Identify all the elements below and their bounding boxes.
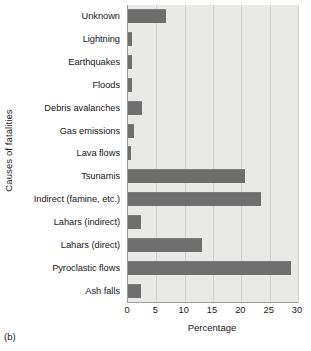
bar xyxy=(128,124,134,138)
category-label: Tsunamis xyxy=(16,165,124,188)
bar xyxy=(128,146,131,160)
bar xyxy=(128,169,245,183)
bar-row xyxy=(128,256,298,279)
category-label: Unknown xyxy=(16,5,124,28)
x-tick-label: 15 xyxy=(207,305,217,315)
category-label: Ash falls xyxy=(16,279,124,302)
bar-row xyxy=(128,96,298,119)
y-axis-title: Causes of fatalities xyxy=(0,0,16,300)
bar-row xyxy=(128,119,298,142)
bar-row xyxy=(128,5,298,28)
bar xyxy=(128,215,141,229)
bar-row xyxy=(128,51,298,74)
bar xyxy=(128,238,202,252)
bar xyxy=(128,32,132,46)
plot-area xyxy=(127,5,298,302)
gridline xyxy=(298,5,299,302)
bar xyxy=(128,55,132,69)
category-label: Lahars (direct) xyxy=(16,233,124,256)
category-axis-labels: UnknownLightningEarthquakesFloodsDebris … xyxy=(16,5,124,302)
x-axis-line xyxy=(127,302,298,303)
x-tick-label: 25 xyxy=(263,305,273,315)
x-tick-label: 10 xyxy=(178,305,188,315)
x-axis-tick-labels: 051015202530 xyxy=(127,305,297,319)
bar xyxy=(128,284,141,298)
y-axis-title-text: Causes of fatalities xyxy=(3,109,14,191)
bar-row xyxy=(128,233,298,256)
category-label: Floods xyxy=(16,74,124,97)
bar xyxy=(128,9,166,23)
bar xyxy=(128,78,132,92)
category-label: Lava flows xyxy=(16,142,124,165)
bar-row xyxy=(128,188,298,211)
category-label: Lightning xyxy=(16,28,124,51)
bar-row xyxy=(128,279,298,302)
bar xyxy=(128,192,261,206)
panel-caption: (b) xyxy=(4,331,16,342)
x-tick-label: 5 xyxy=(153,305,158,315)
bar-row xyxy=(128,211,298,234)
x-axis-title: Percentage xyxy=(127,322,297,333)
x-tick-label: 30 xyxy=(292,305,302,315)
x-tick-label: 0 xyxy=(124,305,129,315)
bar-row xyxy=(128,28,298,51)
bar-series xyxy=(128,5,298,302)
category-label: Pyroclastic flows xyxy=(16,256,124,279)
category-label: Indirect (famine, etc.) xyxy=(16,188,124,211)
category-label: Debris avalanches xyxy=(16,96,124,119)
category-label: Earthquakes xyxy=(16,51,124,74)
category-label: Lahars (indirect) xyxy=(16,211,124,234)
bar-chart-figure: Causes of fatalities UnknownLightningEar… xyxy=(0,0,311,351)
bar xyxy=(128,101,142,115)
category-label: Gas emissions xyxy=(16,119,124,142)
bar-row xyxy=(128,165,298,188)
bar-row xyxy=(128,142,298,165)
bar-row xyxy=(128,74,298,97)
x-tick-label: 20 xyxy=(235,305,245,315)
bar xyxy=(128,261,291,275)
